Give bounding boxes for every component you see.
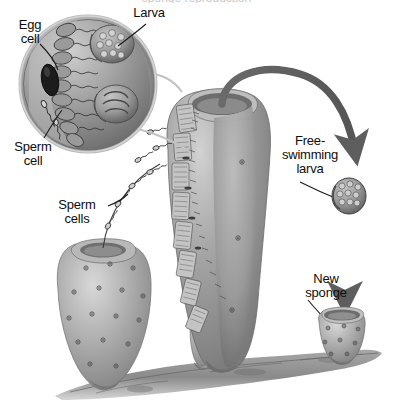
label-new-sponge: New sponge — [296, 272, 356, 300]
sponge-reproduction-figure: sponge reproduction — [0, 0, 393, 419]
free-swimming-larva — [332, 178, 366, 214]
inset-larva-lower — [94, 85, 138, 123]
label-larva: Larva — [120, 6, 178, 20]
label-sperm-cells: Sperm cells — [46, 198, 108, 226]
label-sperm-cell: Sperm cell — [4, 140, 62, 168]
center-sponge — [167, 89, 270, 373]
label-egg-cell: Egg cell — [6, 18, 54, 46]
label-free-swimming-larva: Free- swimming larva — [280, 134, 340, 176]
left-sponge — [57, 239, 151, 390]
